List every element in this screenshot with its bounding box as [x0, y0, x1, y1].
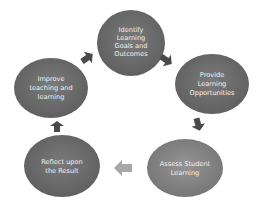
- node-label-line: teaching and: [29, 84, 72, 92]
- node-improve-teaching-learning: Improve teaching and learning: [14, 58, 88, 118]
- node-identify-learning-goals: Identify Learning Goals and Outcomes: [97, 10, 165, 76]
- arrow-up-right-icon: [78, 48, 97, 67]
- node-reflect-upon-result: Reflect upon the Result: [24, 135, 100, 197]
- node-label-line: Identify: [119, 26, 144, 34]
- node-provide-learning-opportunities: Provide Learning Opportunities: [175, 54, 249, 114]
- arrow-down-icon: [190, 116, 207, 132]
- node-label-line: Opportunities: [190, 89, 236, 97]
- node-label-line: Provide: [200, 71, 224, 79]
- node-assess-student-learning: Assess Student Learning: [147, 139, 223, 197]
- arrow-up-icon: [50, 121, 64, 132]
- node-label-line: learning: [38, 93, 65, 101]
- cycle-diagram: Identify Learning Goals and Outcomes Pro…: [0, 0, 264, 207]
- node-label-line: the Result: [45, 167, 79, 175]
- node-label-line: Learning: [198, 80, 227, 88]
- node-label-line: Learning: [117, 34, 146, 42]
- node-label-line: Outcomes: [114, 50, 148, 58]
- node-label-line: Reflect upon: [41, 158, 82, 166]
- node-label-line: Learning: [171, 169, 200, 177]
- arrow-left-icon: [114, 160, 132, 176]
- node-label-line: Assess Student: [160, 160, 211, 168]
- node-label-line: Goals and: [115, 42, 148, 50]
- node-label-line: Improve: [37, 75, 64, 83]
